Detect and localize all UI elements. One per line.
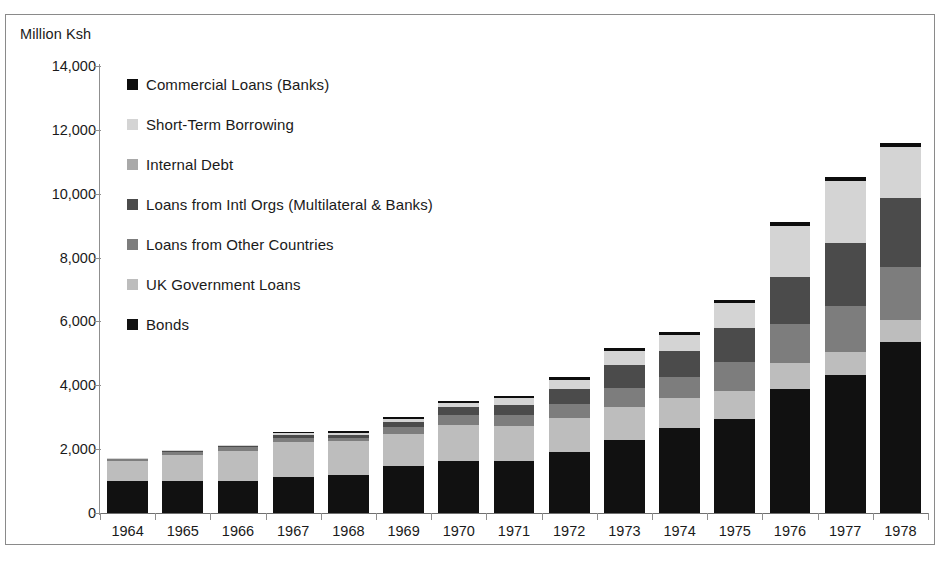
bar-stack[interactable]	[604, 66, 645, 513]
bar-segment[interactable]	[880, 267, 921, 319]
bar-segment[interactable]	[328, 435, 369, 438]
bar-segment[interactable]	[880, 143, 921, 147]
bar-segment[interactable]	[659, 377, 700, 399]
bar-segment[interactable]	[659, 332, 700, 335]
bar-segment[interactable]	[549, 380, 590, 390]
bar-segment[interactable]	[714, 300, 755, 304]
bar-segment[interactable]	[273, 442, 314, 477]
bar-segment[interactable]	[218, 447, 259, 451]
bar-segment[interactable]	[273, 435, 314, 438]
bar-segment[interactable]	[162, 451, 203, 452]
bar-segment[interactable]	[604, 440, 645, 513]
bar-segment[interactable]	[770, 222, 811, 226]
bar-segment[interactable]	[825, 177, 866, 181]
bar-segment[interactable]	[494, 398, 535, 406]
bar-segment[interactable]	[438, 415, 479, 425]
bar-segment[interactable]	[604, 348, 645, 351]
bar-segment[interactable]	[328, 475, 369, 513]
bar-segment[interactable]	[328, 438, 369, 441]
bar-stack[interactable]	[880, 66, 921, 513]
legend-item-bonds[interactable]: Bonds	[127, 314, 433, 335]
bar-segment[interactable]	[218, 445, 259, 446]
bar-stack[interactable]	[494, 66, 535, 513]
bar-segment[interactable]	[383, 419, 424, 423]
bar-segment[interactable]	[438, 403, 479, 407]
bar-segment[interactable]	[383, 417, 424, 419]
bar-segment[interactable]	[825, 375, 866, 513]
bar-segment[interactable]	[549, 418, 590, 452]
bar-segment[interactable]	[107, 481, 148, 513]
bar-segment[interactable]	[825, 352, 866, 375]
bar-segment[interactable]	[714, 391, 755, 418]
bar-segment[interactable]	[880, 198, 921, 267]
bar-stack[interactable]	[825, 66, 866, 513]
bar-segment[interactable]	[880, 147, 921, 197]
legend-item-uk_government_loans[interactable]: UK Government Loans	[127, 274, 433, 295]
bar-segment[interactable]	[659, 351, 700, 377]
legend-item-commercial_loans_banks[interactable]: Commercial Loans (Banks)	[127, 74, 433, 95]
bar-segment[interactable]	[494, 426, 535, 461]
bar-segment[interactable]	[162, 450, 203, 451]
bar-segment[interactable]	[714, 328, 755, 362]
bar-segment[interactable]	[604, 407, 645, 439]
bar-segment[interactable]	[714, 303, 755, 328]
bar-segment[interactable]	[438, 401, 479, 403]
bar-segment[interactable]	[549, 377, 590, 380]
bar-segment[interactable]	[273, 438, 314, 442]
bar-segment[interactable]	[162, 481, 203, 513]
bar-segment[interactable]	[438, 407, 479, 414]
bar-segment[interactable]	[438, 461, 479, 513]
bar-segment[interactable]	[383, 427, 424, 434]
bar-segment[interactable]	[107, 461, 148, 481]
bar-segment[interactable]	[494, 415, 535, 426]
bar-segment[interactable]	[659, 428, 700, 513]
legend-item-short_term_borrowing[interactable]: Short-Term Borrowing	[127, 114, 433, 135]
bar-segment[interactable]	[659, 335, 700, 351]
bar-stack[interactable]	[770, 66, 811, 513]
bar-segment[interactable]	[714, 419, 755, 514]
bar-segment[interactable]	[549, 389, 590, 404]
bar-stack[interactable]	[714, 66, 755, 513]
bar-segment[interactable]	[218, 446, 259, 448]
bar-segment[interactable]	[880, 342, 921, 513]
legend-item-loans_intl_orgs[interactable]: Loans from Intl Orgs (Multilateral & Ban…	[127, 194, 433, 215]
bar-segment[interactable]	[770, 277, 811, 324]
bar-segment[interactable]	[273, 477, 314, 513]
bar-segment[interactable]	[273, 433, 314, 435]
bar-stack[interactable]	[659, 66, 700, 513]
bar-segment[interactable]	[383, 434, 424, 465]
bar-segment[interactable]	[825, 243, 866, 307]
bar-segment[interactable]	[494, 396, 535, 398]
bar-segment[interactable]	[494, 461, 535, 513]
bar-segment[interactable]	[549, 452, 590, 513]
bar-segment[interactable]	[494, 405, 535, 415]
bar-segment[interactable]	[604, 365, 645, 388]
bar-segment[interactable]	[880, 320, 921, 342]
bar-stack[interactable]	[438, 66, 479, 513]
bar-segment[interactable]	[659, 398, 700, 428]
bar-segment[interactable]	[162, 455, 203, 481]
bar-segment[interactable]	[770, 324, 811, 363]
bar-segment[interactable]	[604, 388, 645, 407]
bar-segment[interactable]	[273, 432, 314, 433]
bar-stack[interactable]	[549, 66, 590, 513]
bar-segment[interactable]	[328, 431, 369, 432]
bar-segment[interactable]	[714, 362, 755, 391]
bar-segment[interactable]	[383, 466, 424, 513]
bar-segment[interactable]	[107, 459, 148, 461]
bar-segment[interactable]	[770, 226, 811, 277]
bar-segment[interactable]	[383, 422, 424, 427]
bar-segment[interactable]	[604, 351, 645, 365]
bar-segment[interactable]	[770, 363, 811, 389]
bar-segment[interactable]	[218, 451, 259, 481]
bar-segment[interactable]	[328, 433, 369, 435]
bar-segment[interactable]	[549, 404, 590, 418]
bar-segment[interactable]	[107, 458, 148, 459]
bar-segment[interactable]	[770, 389, 811, 513]
bar-segment[interactable]	[162, 452, 203, 455]
bar-segment[interactable]	[825, 306, 866, 352]
bar-segment[interactable]	[825, 181, 866, 243]
legend-item-loans_other_countries[interactable]: Loans from Other Countries	[127, 234, 433, 255]
bar-segment[interactable]	[218, 481, 259, 513]
legend-item-internal_debt[interactable]: Internal Debt	[127, 154, 433, 175]
